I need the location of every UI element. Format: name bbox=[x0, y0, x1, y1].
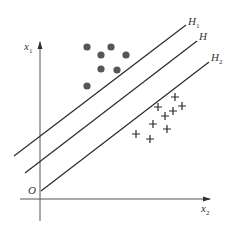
plus-point bbox=[169, 107, 177, 115]
plus-point bbox=[171, 93, 179, 101]
dot-point bbox=[113, 66, 120, 73]
plus-point bbox=[163, 125, 171, 133]
h-label: H bbox=[198, 30, 208, 42]
svm-diagram: x1 x2 O H1 H H2 bbox=[0, 0, 234, 229]
dot-point bbox=[83, 43, 90, 50]
diagram-svg: x1 x2 O H1 H H2 bbox=[0, 0, 234, 229]
plus-point bbox=[149, 120, 157, 128]
origin-label: O bbox=[28, 184, 36, 196]
dot-point bbox=[97, 51, 104, 58]
plus-point bbox=[161, 112, 169, 120]
dot-point bbox=[107, 43, 114, 50]
y-axis-label: x1 bbox=[23, 40, 33, 55]
plus-point bbox=[132, 130, 140, 138]
h2-label: H2 bbox=[210, 51, 223, 66]
dot-point bbox=[97, 65, 104, 72]
plus-point bbox=[154, 103, 162, 111]
hyperplane-h2 bbox=[41, 62, 209, 191]
plus-point bbox=[178, 102, 186, 110]
dot-class-points bbox=[83, 43, 129, 89]
dot-point bbox=[122, 51, 129, 58]
hyperplane-h bbox=[25, 41, 197, 173]
h1-label: H1 bbox=[187, 15, 200, 30]
x-axis-label: x2 bbox=[200, 202, 210, 217]
dot-point bbox=[83, 82, 90, 89]
plus-point bbox=[146, 135, 154, 143]
